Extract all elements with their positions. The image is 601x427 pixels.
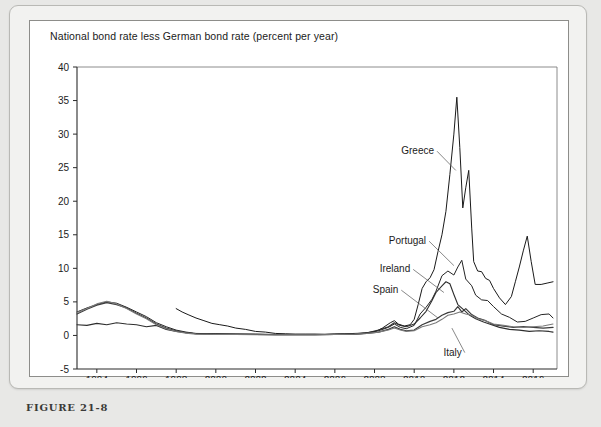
x-tick-label: 2004 xyxy=(284,375,307,378)
x-tick-label: 2016 xyxy=(522,375,545,378)
figure-frame: National bond rate less German bond rate… xyxy=(9,5,587,389)
y-tick-label: 35 xyxy=(58,95,70,106)
y-tick-label: 15 xyxy=(58,229,70,240)
leader-line-ireland xyxy=(413,269,444,292)
x-tick-label: 2000 xyxy=(205,375,228,378)
line-chart: -505101520253035401994199619982000200220… xyxy=(30,21,570,378)
x-tick-label: 2014 xyxy=(482,375,505,378)
x-tick-label: 1998 xyxy=(165,375,188,378)
series-annotation-greece: Greece xyxy=(401,145,434,156)
y-tick-label: 0 xyxy=(63,330,69,341)
y-tick-label: -5 xyxy=(60,364,69,375)
leader-line-portugal xyxy=(429,241,454,265)
series-line-greece xyxy=(176,97,553,334)
y-tick-label: 40 xyxy=(58,62,70,73)
series-annotation-spain: Spain xyxy=(373,284,399,295)
x-tick-label: 2002 xyxy=(244,375,267,378)
y-tick-label: 5 xyxy=(63,296,69,307)
x-tick-label: 2012 xyxy=(443,375,466,378)
y-tick-label: 10 xyxy=(58,263,70,274)
x-tick-label: 2010 xyxy=(403,375,426,378)
series-annotation-ireland: Ireland xyxy=(380,263,411,274)
series-annotation-portugal: Portugal xyxy=(389,235,426,246)
x-tick-label: 1994 xyxy=(86,375,109,378)
y-tick-label: 25 xyxy=(58,162,70,173)
y-tick-label: 20 xyxy=(58,196,70,207)
chart-panel: National bond rate less German bond rate… xyxy=(29,20,569,377)
x-tick-label: 1996 xyxy=(125,375,148,378)
series-line-spain xyxy=(77,303,553,335)
series-line-ireland xyxy=(77,282,553,335)
leader-line-greece xyxy=(437,151,456,170)
series-annotation-italy: Italy xyxy=(443,347,461,358)
x-tick-label: 2006 xyxy=(324,375,347,378)
figure-caption: FIGURE 21-8 xyxy=(26,402,108,413)
y-tick-label: 30 xyxy=(58,129,70,140)
x-tick-label: 2008 xyxy=(363,375,386,378)
